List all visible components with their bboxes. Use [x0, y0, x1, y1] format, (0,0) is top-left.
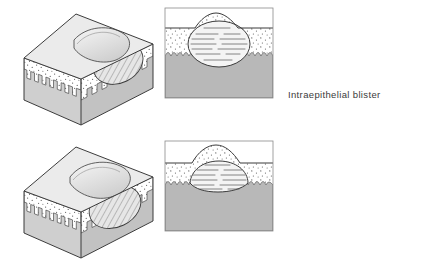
cross-section-intraepithelial: [160, 0, 280, 133]
cross-section-subepithelial: [160, 133, 280, 266]
three-dimensional-block-subepithelial: [8, 133, 160, 266]
diagram-row-intraepithelial: Intraepithelial blister: [0, 0, 425, 133]
blister-diagram: Intraepithelial blister: [0, 0, 425, 267]
label-intraepithelial-blister: Intraepithelial blister: [288, 90, 423, 100]
three-dimensional-block-intraepithelial: [8, 0, 160, 133]
diagram-row-subepithelial: Subepithelial blister: [0, 133, 425, 266]
